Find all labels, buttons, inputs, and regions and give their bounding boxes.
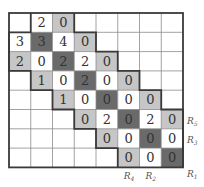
cell-value: 0 xyxy=(124,112,132,127)
cell-value: 2 xyxy=(59,54,67,69)
cell-value: 3 xyxy=(16,34,24,49)
label-R2: R2 xyxy=(144,171,156,182)
cell-value: 0 xyxy=(81,92,89,107)
cell-value: 0 xyxy=(59,15,67,30)
cell-value: 0 xyxy=(103,54,111,69)
cell-value: 0 xyxy=(59,73,67,88)
cell-value: 2 xyxy=(81,54,89,69)
matrix-grid: 203340202201020010000020200000000 R5R3R1… xyxy=(0,0,204,187)
cell-value: 3 xyxy=(37,34,45,49)
cell-value: 2 xyxy=(146,112,154,127)
label-R4: R4 xyxy=(123,171,135,182)
cell-value: 0 xyxy=(124,150,132,165)
cell-value: 0 xyxy=(168,150,176,165)
cell-value: 0 xyxy=(124,92,132,107)
cell-value: 2 xyxy=(103,112,111,127)
cell-value: 0 xyxy=(146,131,154,146)
cell-value: 0 xyxy=(168,112,176,127)
cell-value: 0 xyxy=(168,131,176,146)
label-R3: R3 xyxy=(186,135,198,146)
cell-value: 0 xyxy=(81,34,89,49)
label-R5: R5 xyxy=(186,116,198,127)
cell-value: 0 xyxy=(103,131,111,146)
cell-value: 0 xyxy=(124,131,132,146)
cell-value: 2 xyxy=(16,54,24,69)
label-R1: R1 xyxy=(186,169,198,180)
cell-value: 0 xyxy=(146,150,154,165)
cell-value: 2 xyxy=(81,73,89,88)
cell-value: 1 xyxy=(59,92,67,107)
cell-value: 2 xyxy=(37,15,45,30)
cell-value: 0 xyxy=(103,92,111,107)
cell-value: 0 xyxy=(81,112,89,127)
cell-value: 1 xyxy=(37,73,45,88)
cell-value: 0 xyxy=(124,73,132,88)
cell-value: 0 xyxy=(146,92,154,107)
cell-value: 0 xyxy=(103,73,111,88)
cell-value: 0 xyxy=(37,54,45,69)
banded-matrix-diagram: 203340202201020010000020200000000 R5R3R1… xyxy=(0,0,204,187)
cell-value: 4 xyxy=(59,34,67,49)
